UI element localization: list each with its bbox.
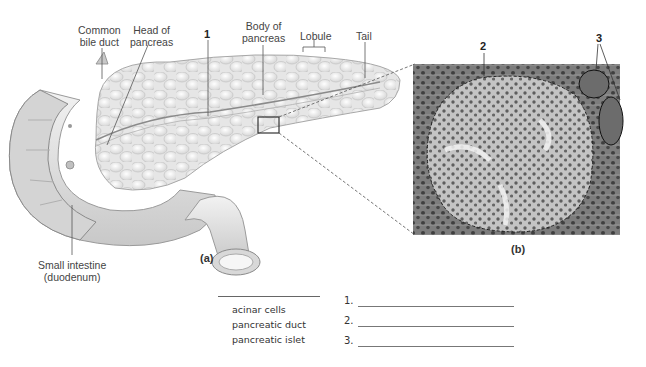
answer-1: 1. [344, 295, 354, 306]
label-line: Common [78, 24, 121, 36]
answer-number: 3. [344, 335, 354, 346]
diagram-artwork [0, 0, 646, 367]
pancreas-illustration [95, 52, 400, 190]
label-line: Body of [242, 20, 285, 32]
answer-number: 2. [344, 315, 354, 326]
answer-number: 1. [344, 295, 354, 306]
caption-a: (a) [200, 252, 213, 264]
terms-divider [218, 296, 320, 297]
term-pancreatic-islet: pancreatic islet [232, 332, 306, 347]
answer-blank-1[interactable] [358, 306, 514, 307]
answer-3: 3. [344, 335, 354, 346]
label-number-3: 3 [596, 32, 602, 44]
micrograph-b [413, 44, 623, 235]
label-tail: Tail [356, 30, 372, 42]
label-common-bile-duct: Common bile duct [78, 24, 121, 48]
label-line: pancreas [242, 32, 285, 44]
label-line: Head of [130, 24, 173, 36]
label-line: bile duct [78, 36, 121, 48]
answer-2: 2. [344, 315, 354, 326]
answer-blank-3[interactable] [358, 346, 514, 347]
label-line: Small intestine [38, 259, 106, 271]
label-body-of-pancreas: Body of pancreas [242, 20, 285, 44]
label-lobule: Lobule [300, 30, 332, 42]
term-list: acinar cells pancreatic duct pancreatic … [232, 302, 306, 347]
caption-b: (b) [511, 243, 525, 255]
label-number-2: 2 [480, 40, 486, 52]
term-acinar-cells: acinar cells [232, 302, 306, 317]
label-small-intestine: Small intestine (duodenum) [38, 259, 106, 283]
label-line: pancreas [130, 36, 173, 48]
label-number-1: 1 [204, 28, 210, 40]
label-head-of-pancreas: Head of pancreas [130, 24, 173, 48]
label-line: (duodenum) [38, 271, 106, 283]
term-pancreatic-duct: pancreatic duct [232, 317, 306, 332]
answer-blank-2[interactable] [358, 326, 514, 327]
